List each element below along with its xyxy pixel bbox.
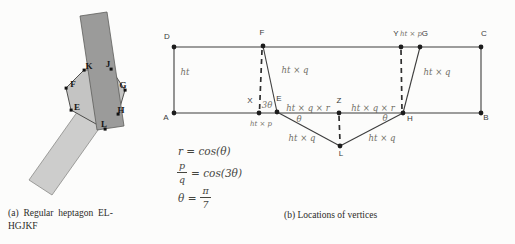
vertex-label-c: C <box>481 30 487 38</box>
frac-num-p: p <box>177 160 187 173</box>
frac-den-7: 7 <box>203 198 209 210</box>
label-htq-el: ht × q <box>289 134 316 143</box>
frac-den-q: q <box>179 173 185 185</box>
formula-r-text: r = cos(θ) <box>178 145 231 157</box>
label-htq-lh: ht × q <box>369 134 396 143</box>
formula-theta: θ = π 7 <box>178 185 211 210</box>
formula-pq: p q = cos(3θ) <box>177 160 242 185</box>
dashed-yh <box>401 50 402 111</box>
label-htq-fe: ht × q <box>282 66 309 75</box>
vertex-label-e2: E <box>276 95 282 103</box>
label-htqr-ez: ht × q × r <box>286 104 329 113</box>
figure-panel: K J F G E H L (a) Regular heptagon EL- H… <box>0 0 515 244</box>
vertex-label-g2: G <box>422 30 428 38</box>
frac-num-pi: π <box>200 185 210 198</box>
label-htq-gh: ht × q <box>424 68 451 77</box>
vertex-label-y: Y <box>393 30 399 38</box>
label-ht: ht <box>181 68 190 77</box>
fraction-p-over-q: p q <box>177 160 187 185</box>
caption-b: (b) Locations of vertices <box>284 210 377 220</box>
vertex-label-b: B <box>483 114 489 122</box>
vertex-label-z: Z <box>336 97 341 105</box>
formula-r: r = cos(θ) <box>178 145 231 157</box>
dashed-zl <box>339 116 340 142</box>
vertex-label-x: X <box>247 97 253 105</box>
vertex-label-d: D <box>164 33 170 41</box>
vertex-label-l2: L <box>339 150 344 158</box>
label-htp-top: ht × p <box>400 31 422 38</box>
diagram-vertex-dots <box>172 44 484 149</box>
vertex-label-a: A <box>163 114 169 122</box>
label-theta-e: θ <box>296 115 301 124</box>
label-three-theta: 3θ <box>262 101 273 110</box>
vertex-label-f2: F <box>259 29 264 37</box>
label-theta-h: θ <box>382 114 387 123</box>
edge-gh <box>403 47 420 113</box>
fraction-pi-over-7: π 7 <box>200 185 210 210</box>
formula-pq-rhs: = cos(3θ) <box>191 167 242 179</box>
label-htqr-zh: ht × q × r <box>351 104 394 113</box>
formula-theta-lhs: θ = <box>178 192 196 204</box>
label-htp-bottom: ht × p <box>250 121 272 128</box>
vertex-label-h2: H <box>407 115 413 123</box>
